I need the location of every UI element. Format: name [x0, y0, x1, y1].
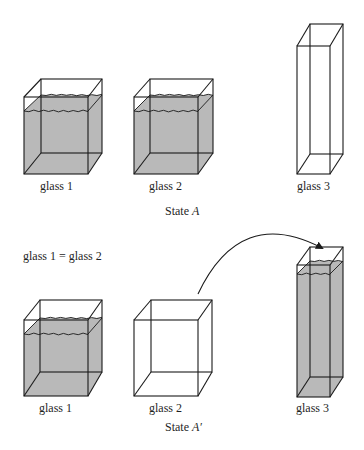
- water-fill: [24, 95, 102, 174]
- state-a-prime-caption: State A′: [165, 420, 202, 435]
- caption-prefix: State: [165, 420, 189, 434]
- glass-edge: [198, 79, 213, 97]
- glass-back-face: [310, 24, 343, 154]
- state-a-prime-glass-3-label: glass 3: [296, 401, 329, 416]
- state-0-glass-1: [24, 79, 102, 174]
- glass-edge: [134, 79, 150, 97]
- glass-edge: [297, 24, 310, 46]
- caption-prefix: State: [165, 204, 189, 218]
- state-a-caption: State A: [165, 204, 199, 219]
- glass-edge: [134, 372, 151, 396]
- equality-note: glass 1 = glass 2: [23, 249, 102, 264]
- state-a-glass-3-label: glass 3: [297, 179, 330, 194]
- glass-edge: [297, 154, 310, 174]
- glass-edge: [330, 154, 343, 174]
- glass-edge: [88, 300, 102, 320]
- state-0-glass-3: [297, 24, 343, 174]
- state-a-prime-glass-2-label: glass 2: [149, 401, 182, 416]
- state-0-glass-2: [134, 79, 213, 174]
- state-a-glass-1-label: glass 1: [40, 179, 73, 194]
- conservation-diagram: [0, 0, 364, 450]
- glass-front-face: [134, 320, 198, 396]
- state-1-glass-3: [297, 247, 343, 397]
- state-a-glass-2-label: glass 2: [149, 179, 182, 194]
- glass-edge: [198, 372, 212, 396]
- glass-edge: [330, 24, 343, 46]
- glass-edge: [198, 300, 212, 320]
- state-a-prime-glass-1-label: glass 1: [39, 401, 72, 416]
- water-fill: [24, 318, 102, 396]
- glass-edge: [24, 300, 40, 320]
- glass-front-face: [297, 46, 330, 174]
- glass-edge: [134, 300, 151, 320]
- caption-symbol: A′: [192, 420, 202, 434]
- water-fill: [134, 95, 213, 174]
- glass-edge: [24, 79, 41, 97]
- caption-symbol: A: [192, 204, 199, 218]
- state-1-glass-2: [134, 300, 212, 396]
- glass-back-face: [151, 300, 212, 372]
- state-1-glass-1: [24, 300, 102, 396]
